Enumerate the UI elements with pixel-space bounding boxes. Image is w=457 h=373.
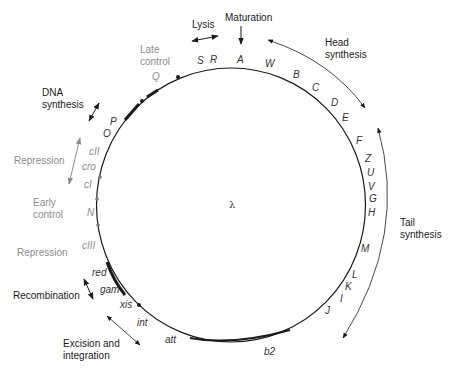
label-late-control-1: Late bbox=[140, 44, 160, 55]
label-lysis: Lysis bbox=[192, 19, 214, 30]
gene-r: R bbox=[210, 54, 217, 65]
gene-h: H bbox=[368, 207, 376, 218]
dna-synthesis-arrow bbox=[89, 103, 99, 121]
marker-dot-xis bbox=[137, 303, 141, 307]
gene-e: E bbox=[342, 112, 349, 123]
gene-i: I bbox=[340, 293, 343, 304]
gene-m: M bbox=[361, 243, 370, 254]
gene-xis: xis bbox=[119, 299, 132, 310]
label-dna-synthesis-1: DNA bbox=[42, 87, 63, 98]
gene-cii: cII bbox=[89, 146, 100, 157]
gene-u: U bbox=[367, 167, 375, 178]
label-repression-lower: Repression bbox=[17, 247, 68, 258]
label-early-control-2: control bbox=[33, 209, 63, 220]
label-excision-integration-1: Excision and bbox=[63, 338, 120, 349]
lambda-genetic-map: λ Lysis Maturation Head synthesis Tail s… bbox=[0, 0, 457, 373]
gene-g: G bbox=[369, 193, 377, 204]
label-tail-synthesis-2: synthesis bbox=[400, 229, 442, 240]
gene-d: D bbox=[331, 97, 338, 108]
gene-p: P bbox=[110, 116, 117, 127]
label-tail-synthesis-1: Tail bbox=[400, 217, 415, 228]
label-excision-integration-2: integration bbox=[63, 350, 110, 361]
gene-b2: b2 bbox=[264, 346, 276, 357]
lambda-label: λ bbox=[229, 199, 236, 210]
label-head-synthesis-2: synthesis bbox=[325, 49, 367, 60]
marker-dot-n-upper bbox=[95, 197, 99, 201]
lysis-arrow bbox=[192, 36, 218, 41]
gene-int: int bbox=[137, 317, 149, 328]
gene-c: C bbox=[312, 82, 320, 93]
thick-segment-p bbox=[125, 104, 139, 120]
marker-dot-n-lower bbox=[96, 223, 100, 227]
gene-b: B bbox=[293, 69, 300, 80]
gene-f: F bbox=[356, 135, 363, 146]
label-head-synthesis-1: Head bbox=[325, 37, 349, 48]
label-early-control-1: Early bbox=[33, 197, 56, 208]
label-late-control-2: control bbox=[140, 56, 170, 67]
gene-z: Z bbox=[364, 153, 372, 164]
gene-l: L bbox=[352, 269, 358, 280]
label-dna-synthesis-2: synthesis bbox=[42, 99, 84, 110]
gene-red: red bbox=[92, 267, 107, 278]
thick-segment-q bbox=[147, 90, 158, 97]
label-repression-upper: Repression bbox=[14, 155, 65, 166]
marker-dot-cro bbox=[98, 175, 102, 179]
gene-o: O bbox=[103, 128, 111, 139]
label-recombination: Recombination bbox=[13, 290, 80, 301]
label-maturation: Maturation bbox=[225, 12, 272, 23]
gene-w: W bbox=[265, 58, 276, 69]
gene-v: V bbox=[368, 181, 376, 192]
gene-a: A bbox=[236, 54, 244, 65]
repression-upper-arrow bbox=[69, 138, 80, 184]
gene-j: J bbox=[324, 305, 331, 316]
gene-ciii: cIII bbox=[82, 240, 96, 251]
gene-q: Q bbox=[152, 71, 160, 82]
marker-dot-sq bbox=[176, 75, 180, 79]
gene-gam: gam bbox=[100, 284, 119, 295]
gene-k: K bbox=[345, 281, 353, 292]
gene-ci: cI bbox=[84, 179, 92, 190]
recombination-arrow bbox=[84, 279, 93, 299]
gene-att: att bbox=[165, 334, 177, 345]
thick-segment-b2 bbox=[190, 330, 290, 341]
gene-s: S bbox=[197, 55, 204, 66]
gene-cro: cro bbox=[82, 161, 96, 172]
gene-n: N bbox=[87, 207, 95, 218]
marker-dot-pq bbox=[140, 99, 144, 103]
